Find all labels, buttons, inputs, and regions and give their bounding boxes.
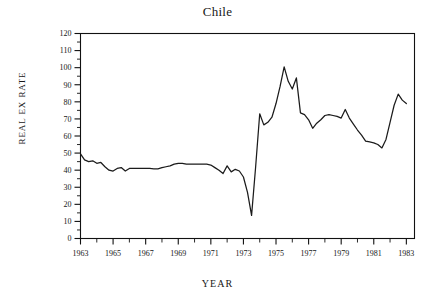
x-tick-label: 1971	[203, 249, 219, 258]
x-tick-label: 1967	[138, 249, 154, 258]
y-tick-label: 100	[60, 63, 72, 72]
y-tick-label: 40	[64, 166, 72, 175]
x-tick-label: 1981	[366, 249, 382, 258]
x-tick-label: 1973	[235, 249, 251, 258]
y-tick-label: 60	[64, 132, 72, 141]
y-tick-label: 80	[64, 98, 72, 107]
y-tick-label: 70	[64, 115, 72, 124]
data-series-line	[81, 67, 407, 216]
x-tick-label: 1977	[301, 249, 317, 258]
y-tick-label: 120	[60, 29, 72, 38]
x-axis-ticks: 1963196519671969197119731975197719791981…	[73, 239, 415, 258]
y-tick-label: 30	[64, 183, 72, 192]
y-axis-ticks: 0102030405060708090100110120	[60, 29, 81, 243]
plot-frame	[81, 34, 415, 239]
x-tick-label: 1963	[73, 249, 89, 258]
y-tick-label: 50	[64, 149, 72, 158]
x-tick-label: 1979	[333, 249, 349, 258]
chart-title: Chile	[0, 4, 435, 20]
x-tick-label: 1965	[105, 249, 121, 258]
chart-figure: Chile REAL EX RATE YEAR 0102030405060708…	[0, 0, 435, 307]
y-tick-label: 90	[64, 81, 72, 90]
x-axis-label: YEAR	[0, 278, 435, 289]
plot-canvas: 0102030405060708090100110120 19631965196…	[0, 0, 435, 307]
y-axis-label: REAL EX RATE	[17, 38, 27, 178]
x-tick-label: 1983	[398, 249, 414, 258]
x-tick-label: 1969	[170, 249, 186, 258]
x-tick-label: 1975	[268, 249, 284, 258]
y-tick-label: 110	[60, 46, 72, 55]
y-tick-label: 0	[68, 234, 72, 243]
y-tick-label: 10	[64, 217, 72, 226]
y-tick-label: 20	[64, 200, 72, 209]
